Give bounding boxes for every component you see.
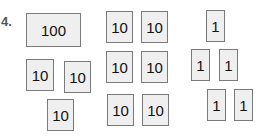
value-block-1: 1 [219,49,238,81]
value-block-10: 10 [142,94,169,126]
value-block-10: 10 [106,11,133,43]
value-block-10: 10 [47,99,74,131]
value-block-1: 1 [206,10,225,42]
value-block-10: 10 [26,59,54,91]
value-block-100: 100 [26,13,81,47]
value-block-1: 1 [234,89,253,121]
value-block-10: 10 [141,11,168,43]
value-block-10: 10 [107,94,134,126]
value-block-10: 10 [106,51,133,83]
value-block-10: 10 [64,61,91,93]
value-block-10: 10 [141,51,168,83]
value-block-1: 1 [207,89,226,121]
value-block-1: 1 [191,49,210,81]
problem-number: 4. [1,14,12,29]
